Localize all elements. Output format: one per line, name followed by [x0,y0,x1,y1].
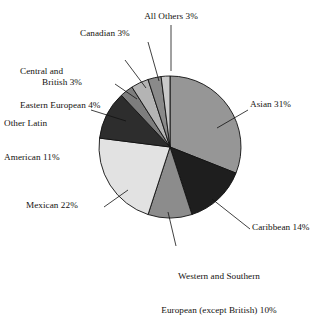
slice-label-western-and-southern-european: Western and Southern European (except Br… [139,249,299,319]
slice-label-mexican: Mexican 22% [26,200,104,211]
leader-line [148,42,159,81]
slice-label-caribbean: Caribbean 14% [252,222,328,233]
slice-label-canadian: Canadian 3% [80,28,147,39]
slice-label-line-1: Central and [20,66,124,77]
slice-label-asian: Asian 31% [250,99,322,110]
leader-line [125,60,146,88]
slice-label-line-1: Western and Southern [139,271,299,282]
slice-label-other-latin-american: Other Latin American 11% [4,96,90,186]
leader-line [212,199,250,229]
slice-label-line-2: American 11% [4,152,90,163]
slice-label-all-others: All Others 3% [132,11,210,22]
slice-label-line-2: European (except British) 10% [139,305,299,316]
slice-label-british: British 3% [42,77,114,88]
slice-label-line-1: Other Latin [4,118,90,129]
